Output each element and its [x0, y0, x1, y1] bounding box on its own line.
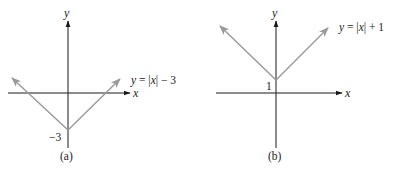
- function-label-rhs: | + 1: [364, 21, 385, 34]
- y-axis-label: y: [63, 6, 70, 20]
- function-label: y = |x| − 3: [130, 74, 176, 87]
- function-label-eq: = |: [344, 21, 359, 34]
- tick-label: 1: [266, 80, 272, 92]
- x-axis-label: x: [344, 86, 351, 100]
- abs-curve-a: [12, 78, 120, 130]
- function-label-eq: = |: [136, 74, 151, 87]
- function-label: y = |x| + 1: [338, 21, 384, 34]
- figure: y x y = |x| − 3 −3 (a) y x y = |x| + 1 1…: [0, 0, 394, 170]
- function-label-rhs: | − 3: [156, 74, 177, 87]
- panel-a: y x y = |x| − 3 −3 (a): [8, 6, 176, 163]
- y-axis-label: y: [271, 6, 278, 20]
- x-axis-label: x: [132, 86, 139, 100]
- panel-caption: (a): [60, 150, 73, 163]
- tick-label: −3: [49, 131, 61, 143]
- panel-caption: (b): [268, 150, 282, 163]
- panel-b: y x y = |x| + 1 1 (b): [216, 6, 384, 163]
- abs-curve-b: [220, 26, 328, 80]
